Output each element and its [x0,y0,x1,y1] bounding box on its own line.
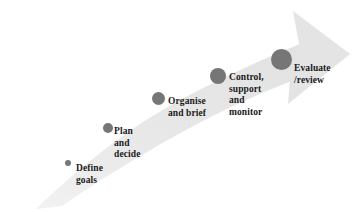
stage-label-line: /review [294,75,331,87]
stage-label-organise-and-brief: Organise and brief [168,96,206,119]
stage-label-line: support [229,84,264,96]
stage-label-line: goals [76,175,103,187]
stage-label-line: Define [76,163,103,175]
stage-label-line: and brief [168,108,206,120]
stage-label-line: decide [114,149,140,161]
stage-label-line: and [229,95,264,107]
stage-label-line: Control, [229,72,264,84]
stage-label-line: Plan [114,126,140,138]
stage-dot-plan-and-decide [103,123,113,133]
stage-dot-organise-and-brief [152,92,165,105]
stage-dot-define-goals [65,160,71,166]
stage-label-line: and [114,138,140,150]
arrow-head [288,11,350,104]
stage-label-plan-and-decide: Plan and decide [114,126,140,161]
stage-dot-control-support-and-monitor [210,68,226,84]
stage-label-line: Evaluate [294,63,331,75]
stage-dot-evaluate-review [271,49,292,70]
stage-label-line: monitor [229,107,264,119]
stage-label-evaluate-review: Evaluate /review [294,63,331,86]
stage-label-control-support-and-monitor: Control, support and monitor [229,72,264,118]
diagram-canvas: Define goals Plan and decide Organise an… [0,0,357,212]
stage-label-define-goals: Define goals [76,163,103,186]
stage-label-line: Organise [168,96,206,108]
